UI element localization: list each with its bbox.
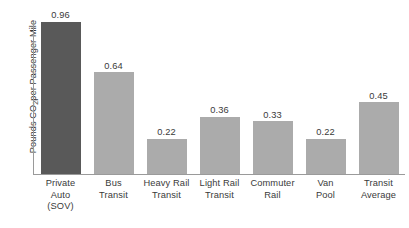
plot-area: 0.960.640.220.360.330.220.45 <box>34 12 405 174</box>
category-label-line: Average <box>352 190 405 202</box>
category-label-line: Bus <box>87 178 140 190</box>
bar-group: 0.45 <box>359 12 399 174</box>
x-axis-category-label: Heavy RailTransit <box>140 178 193 201</box>
bar <box>41 22 81 174</box>
x-axis-category-labels: PrivateAuto(SOV)BusTransitHeavy RailTran… <box>34 178 405 226</box>
bar-value-label: 0.22 <box>133 127 201 137</box>
bar-value-label: 0.45 <box>345 91 409 101</box>
category-label-line: Transit <box>193 190 246 202</box>
x-axis-category-label: CommuterRail <box>246 178 299 201</box>
bar-group: 0.22 <box>147 12 187 174</box>
bar <box>306 139 346 174</box>
x-axis-category-label: PrivateAuto(SOV) <box>34 178 87 213</box>
bar-group: 0.22 <box>306 12 346 174</box>
bar-chart: Pounds CO2 per Passenger Mile 0.960.640.… <box>0 0 409 228</box>
category-label-line: Commuter <box>246 178 299 190</box>
category-label-line: Heavy Rail <box>140 178 193 190</box>
bar <box>253 121 293 173</box>
category-label-line: Rail <box>246 190 299 202</box>
bar-group: 0.36 <box>200 12 240 174</box>
category-label-line: Private <box>34 178 87 190</box>
category-label-line: Light Rail <box>193 178 246 190</box>
category-label-line: Transit <box>352 178 405 190</box>
category-label-line: (SOV) <box>34 201 87 213</box>
x-axis-category-label: VanPool <box>299 178 352 201</box>
bar-value-label: 0.96 <box>27 10 95 20</box>
bar <box>359 102 399 173</box>
bar-value-label: 0.64 <box>80 61 148 71</box>
bar <box>147 139 187 174</box>
category-label-line: Transit <box>87 190 140 202</box>
bar-group: 0.96 <box>41 12 81 174</box>
category-label-line: Transit <box>140 190 193 202</box>
bar <box>200 117 240 174</box>
bar-group: 0.33 <box>253 12 293 174</box>
bar-value-label: 0.33 <box>239 110 307 120</box>
x-axis-category-label: TransitAverage <box>352 178 405 201</box>
x-axis-line <box>33 174 405 175</box>
category-label-line: Van <box>299 178 352 190</box>
x-axis-category-label: Light RailTransit <box>193 178 246 201</box>
category-label-line: Auto <box>34 190 87 202</box>
x-axis-category-label: BusTransit <box>87 178 140 201</box>
bar <box>94 72 134 173</box>
bar-group: 0.64 <box>94 12 134 174</box>
category-label-line: Pool <box>299 190 352 202</box>
bar-value-label: 0.22 <box>292 127 360 137</box>
